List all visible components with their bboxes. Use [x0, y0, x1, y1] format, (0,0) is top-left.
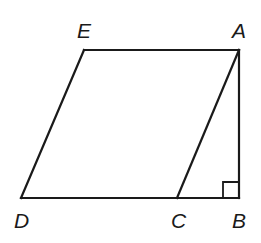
label-c: C [171, 209, 187, 232]
right-angle-marker [223, 182, 239, 198]
label-d: D [14, 209, 29, 232]
label-b: B [232, 209, 246, 232]
segment-de [21, 50, 84, 198]
label-a: A [230, 19, 246, 42]
label-e: E [77, 19, 92, 42]
segment-ac [177, 50, 239, 198]
geometry-diagram: E A D C B [0, 0, 261, 243]
